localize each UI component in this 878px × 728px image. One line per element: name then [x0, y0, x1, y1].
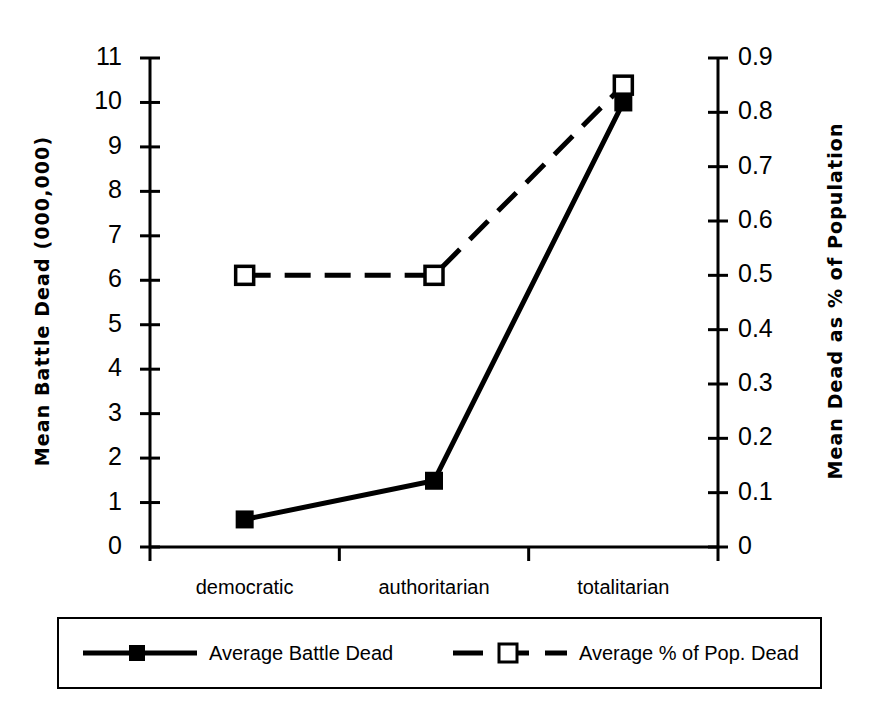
data-point-marker — [614, 93, 632, 111]
legend-sample-dashed-open-square — [451, 641, 569, 665]
data-point-marker — [425, 266, 443, 284]
data-point-marker — [614, 76, 632, 94]
legend-item-average-pct-pop-dead[interactable]: Average % of Pop. Dead — [451, 619, 799, 687]
legend-item-average-battle-dead[interactable]: Average Battle Dead — [81, 619, 393, 687]
data-point-marker — [236, 266, 254, 284]
legend-label-average-battle-dead: Average Battle Dead — [209, 642, 393, 665]
data-point-marker — [425, 472, 443, 490]
series-line-0 — [245, 102, 624, 519]
legend-sample-solid-filled-square — [81, 641, 199, 665]
series-group — [236, 76, 633, 528]
chart-container: Mean Battle Dead (000,000) Mean Dead as … — [0, 0, 878, 728]
series-line-1 — [245, 85, 624, 275]
legend: Average Battle Dead Average % of Pop. De… — [57, 617, 822, 689]
legend-label-average-pct-pop-dead: Average % of Pop. Dead — [579, 642, 799, 665]
data-point-marker — [236, 510, 254, 528]
